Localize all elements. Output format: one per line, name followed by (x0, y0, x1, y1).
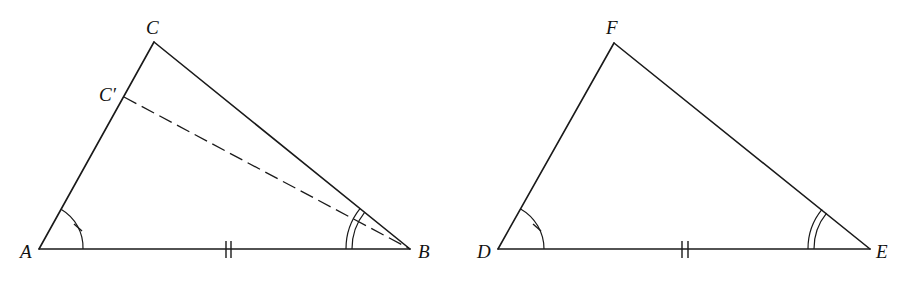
dashed-segment-bc-prime (124, 97, 410, 249)
label-d: D (476, 241, 491, 262)
side-cb (154, 42, 410, 249)
angle-d-arc (521, 209, 544, 249)
side-ac (39, 42, 154, 249)
angle-b-arc-outer (346, 209, 360, 249)
label-f: F (605, 17, 618, 38)
side-fe (614, 43, 870, 249)
angle-a-tick (74, 224, 82, 231)
label-c-prime: C′ (99, 84, 117, 105)
congruent-triangles-diagram: A B C C′ D E F (0, 0, 909, 286)
triangle-def: D E F (476, 17, 888, 262)
label-a: A (18, 241, 32, 262)
triangle-abc: A B C C′ (18, 17, 430, 262)
side-df (498, 43, 614, 249)
label-c: C (146, 17, 159, 38)
label-e: E (875, 241, 888, 262)
label-b: B (418, 241, 430, 262)
angle-e-arc-outer (808, 209, 822, 249)
